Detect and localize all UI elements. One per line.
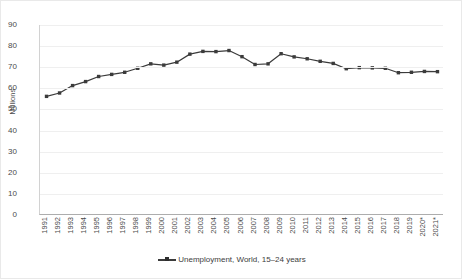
x-tick-label-2008: 2008 (262, 206, 271, 217)
gridline-60 (40, 88, 443, 89)
x-tick-label-1999: 1999 (144, 206, 153, 217)
x-tick-label-1996: 1996 (105, 206, 114, 217)
x-tick-label-2018: 2018 (392, 206, 401, 217)
y-tick-label-80: 80 (0, 42, 17, 50)
plot-area (39, 25, 443, 215)
x-tick-label-2006: 2006 (236, 206, 245, 217)
x-tick-label-1994: 1994 (79, 206, 88, 217)
x-axis-tick-labels: 1991199219931994199519961997199819992000… (39, 217, 443, 257)
x-tick-label-2004: 2004 (209, 206, 218, 217)
x-tick-label-2003: 2003 (196, 206, 205, 217)
y-tick-label-10: 10 (0, 190, 17, 198)
x-tick-label-2013: 2013 (327, 206, 336, 217)
legend-entry: Unemployment, World, 15–24 years (158, 255, 305, 264)
y-tick-label-40: 40 (0, 127, 17, 135)
y-tick-label-50: 50 (0, 105, 17, 113)
y-tick-label-70: 70 (0, 63, 17, 71)
series-unemployment-world-15-24 (40, 25, 444, 215)
gridline-90 (40, 25, 443, 26)
y-tick-label-20: 20 (0, 169, 17, 177)
x-tick-label-2010: 2010 (288, 206, 297, 217)
y-tick-label-90: 90 (0, 21, 17, 29)
x-tick-label-2001: 2001 (170, 206, 179, 217)
legend-line-marker-icon (158, 256, 176, 264)
x-tick-label-1995: 1995 (92, 206, 101, 217)
x-tick-label-2009: 2009 (275, 206, 284, 217)
gridline-80 (40, 46, 443, 47)
y-tick-label-60: 60 (0, 84, 17, 92)
gridline-20 (40, 173, 443, 174)
x-tick-label-2015: 2015 (353, 206, 362, 217)
x-tick-label-2014: 2014 (340, 206, 349, 217)
x-tick-label-2019: 2019 (405, 206, 414, 217)
y-axis-title: Millions (8, 72, 17, 132)
chart-legend: Unemployment, World, 15–24 years (1, 255, 462, 264)
x-tick-label-2005: 2005 (222, 206, 231, 217)
y-tick-label-30: 30 (0, 148, 17, 156)
gridline-30 (40, 152, 443, 153)
legend-entry-label: Unemployment, World, 15–24 years (178, 255, 305, 264)
x-tick-label-1998: 1998 (131, 206, 140, 217)
x-tick-label-1992: 1992 (53, 206, 62, 217)
gridline-50 (40, 109, 443, 110)
x-tick-label-2000: 2000 (157, 206, 166, 217)
x-tick-label-1991: 1991 (40, 206, 49, 217)
gridline-40 (40, 131, 443, 132)
x-tick-label-2020-est: 2020* (418, 206, 427, 217)
gridline-70 (40, 67, 443, 68)
y-tick-label-0: 0 (0, 211, 17, 219)
x-tick-label-1993: 1993 (66, 206, 75, 217)
gridline-10 (40, 194, 443, 195)
x-tick-label-2007: 2007 (249, 206, 258, 217)
chart-container: Millions 9080706050403020100 19911992199… (0, 0, 462, 279)
x-tick-label-2002: 2002 (183, 206, 192, 217)
x-tick-label-2012: 2012 (314, 206, 323, 217)
x-tick-label-2021-est: 2021* (431, 206, 440, 217)
x-tick-label-2017: 2017 (379, 206, 388, 217)
x-tick-label-1997: 1997 (118, 206, 127, 217)
x-tick-label-2011: 2011 (301, 206, 310, 217)
x-tick-label-2016: 2016 (366, 206, 375, 217)
